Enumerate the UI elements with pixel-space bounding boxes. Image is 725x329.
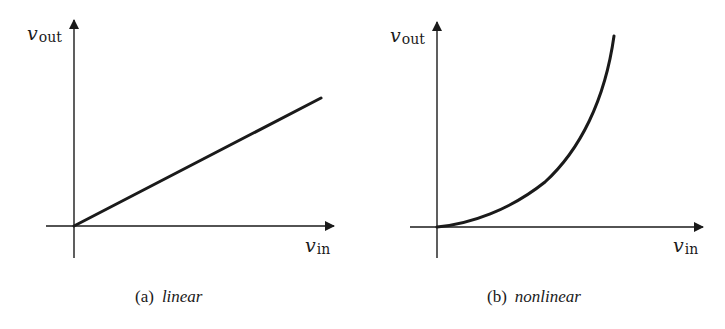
- figure-canvas: [0, 0, 725, 329]
- caption-tag: (b): [487, 287, 507, 306]
- caption-tag: (a): [135, 287, 154, 306]
- y-axis-subscript: out: [39, 29, 62, 45]
- x-axis-subscript: in: [685, 241, 699, 257]
- caption-text: linear: [162, 287, 203, 306]
- panel-b-caption: (b)nonlinear: [487, 288, 581, 305]
- caption-text: nonlinear: [515, 287, 581, 306]
- y-axis-subscript: out: [402, 31, 425, 47]
- y-axis-symbol: v: [27, 22, 38, 44]
- y-axis-symbol: v: [390, 24, 401, 46]
- panel-b-x-axis-label: vin: [673, 236, 698, 256]
- x-axis-symbol: v: [305, 234, 316, 256]
- panel-b-nonlinear: [410, 22, 703, 258]
- panel-a-linear: [46, 20, 334, 258]
- panel-a-caption: (a)linear: [135, 288, 202, 305]
- x-axis-symbol: v: [673, 234, 684, 256]
- panel-a-y-axis-label: vout: [27, 24, 62, 44]
- panel-b-y-axis-label: vout: [390, 26, 425, 46]
- x-axis-subscript: in: [317, 241, 331, 257]
- panel-b-nonlinear-curve: [437, 36, 614, 227]
- panel-a-x-axis-label: vin: [305, 236, 330, 256]
- panel-a-linear-curve: [74, 98, 321, 226]
